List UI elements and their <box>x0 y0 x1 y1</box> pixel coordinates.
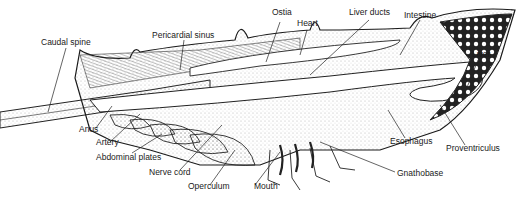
label-operculum: Operculum <box>188 182 230 191</box>
label-heart: Heart <box>297 19 318 28</box>
label-gnathobase: Gnathobase <box>397 169 443 178</box>
label-mouth: Mouth <box>254 182 278 191</box>
label-anus: Anus <box>79 125 98 134</box>
label-esophagus: Esophagus <box>390 137 433 146</box>
label-artery: Artery <box>96 138 119 147</box>
label-liver-ducts: Liver ducts <box>349 8 390 17</box>
label-proventriculus: Proventriculus <box>446 144 500 153</box>
label-nerve-cord: Nerve cord <box>149 168 191 177</box>
label-caudal-spine: Caudal spine <box>41 38 91 47</box>
label-ostia: Ostia <box>272 8 292 17</box>
body-outline <box>75 9 515 190</box>
label-intestine: Intestine <box>404 11 436 20</box>
label-pericardial-sinus: Pericardial sinus <box>152 31 214 40</box>
label-liver: Liver <box>472 50 490 59</box>
label-abdominal-plates: Abdominal plates <box>96 153 161 162</box>
